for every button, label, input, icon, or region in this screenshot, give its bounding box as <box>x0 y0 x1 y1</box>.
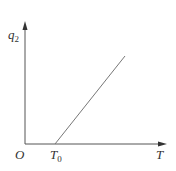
y-axis-label: q2 <box>8 28 19 44</box>
data-line <box>55 56 125 144</box>
x-axis-arrow-icon <box>158 142 167 147</box>
origin-label: O <box>15 148 24 161</box>
diagram-canvas <box>0 0 176 171</box>
y-axis-arrow-icon <box>23 21 28 30</box>
x-axis-label: T <box>156 148 163 161</box>
x-intercept-label: T0 <box>50 148 62 164</box>
